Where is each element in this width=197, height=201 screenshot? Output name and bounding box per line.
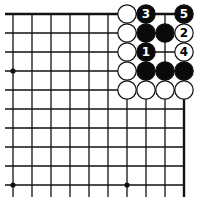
move-number: 5 — [180, 7, 188, 21]
white-stone — [137, 81, 155, 99]
black-stone: 3 — [137, 5, 155, 23]
board-grid — [5, 14, 184, 197]
move-number: 1 — [142, 45, 150, 59]
move-number: 3 — [142, 7, 150, 21]
white-stone: 2 — [175, 24, 193, 42]
white-stone — [156, 81, 174, 99]
white-stone — [118, 24, 136, 42]
black-stone — [137, 62, 155, 80]
move-number: 2 — [180, 26, 188, 40]
white-stone: 4 — [175, 43, 193, 61]
black-stone — [156, 24, 174, 42]
star-point — [124, 182, 129, 187]
white-stone — [118, 62, 136, 80]
star-point — [10, 68, 15, 73]
black-stone — [175, 62, 193, 80]
black-stone: 1 — [137, 43, 155, 61]
move-number: 4 — [180, 45, 188, 59]
stones: 35214 — [118, 5, 193, 99]
go-board: 35214 — [0, 0, 197, 201]
white-stone — [118, 43, 136, 61]
white-stone — [118, 5, 136, 23]
white-stone — [175, 81, 193, 99]
black-stone — [137, 24, 155, 42]
black-stone — [156, 62, 174, 80]
black-stone: 5 — [175, 5, 193, 23]
white-stone — [118, 81, 136, 99]
star-point — [10, 182, 15, 187]
